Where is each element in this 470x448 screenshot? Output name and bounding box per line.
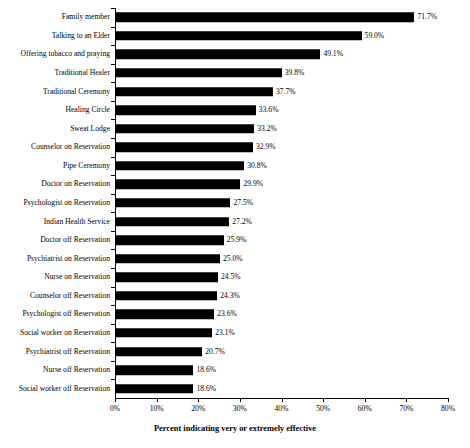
x-axis-tick [448,398,449,402]
category-label: Psychologist off Reservation [22,311,110,319]
x-axis-tick [240,398,241,402]
bar-row: Social worker on Reservation23.1% [0,324,470,343]
x-axis-tick [198,398,199,402]
bar-value-label: 59.0% [365,32,385,40]
category-label: Psychiatrist on Reservation [27,255,110,263]
bar [116,105,256,115]
category-label: Psychologist on Reservation [24,199,110,207]
bar-row: Pipe Ceremony30.8% [0,157,470,176]
category-label: Counselor off Reservation [30,292,110,300]
bar [116,87,273,97]
bar-row: Social worker off Reservation18.6% [0,379,470,398]
bar [116,384,193,394]
y-axis-tick [111,64,115,65]
bar-value-label: 23.1% [215,329,235,337]
y-axis-tick [111,119,115,120]
y-axis-tick [111,268,115,269]
category-label: Sweat Lodge [70,125,110,133]
x-axis-tick-label: 10% [150,405,164,413]
y-axis-tick [111,379,115,380]
bar [116,68,282,78]
y-axis-tick [111,287,115,288]
bar-row: Psychologist on Reservation27.5% [0,194,470,213]
bar-value-label: 18.6% [196,366,216,374]
y-axis-tick [111,138,115,139]
y-axis-tick [111,324,115,325]
bar-value-label: 33.6% [259,106,279,114]
x-axis-tick [323,398,324,402]
bar-value-label: 33.2% [257,125,277,133]
bar-value-label: 71.7% [417,13,437,21]
bar-value-label: 25.9% [227,236,247,244]
bar [116,235,224,245]
bar-value-label: 25.0% [223,255,243,263]
x-axis-tick [282,398,283,402]
x-axis-tick [157,398,158,402]
bar-value-label: 49.1% [323,51,343,59]
bar [116,13,414,23]
category-label: Family member [62,13,110,21]
bar-row: Nurse on Reservation24.5% [0,268,470,287]
bar-row: Nurse off Reservation18.6% [0,361,470,380]
x-axis-tick [406,398,407,402]
bar-row: Doctor on Reservation29.9% [0,175,470,194]
bar-row: Counselor on Reservation32.9% [0,138,470,157]
x-axis-tick-label: 0% [110,405,120,413]
category-label: Indian Health Service [44,218,110,226]
bar [116,328,212,338]
category-label: Doctor on Reservation [41,181,110,189]
y-axis-tick [111,212,115,213]
bar [116,310,214,320]
bar [116,50,320,60]
bar-row: Counselor off Reservation24.3% [0,287,470,306]
bar-row: Talking to an Elder59.0% [0,27,470,46]
x-axis-tick-label: 40% [275,405,289,413]
bar-value-label: 24.3% [220,292,240,300]
x-axis-tick-label: 20% [191,405,205,413]
bar-value-label: 30.8% [247,162,267,170]
bar-row: Traditional Healer39.8% [0,64,470,83]
y-axis-tick [111,45,115,46]
y-axis-tick [111,231,115,232]
bar-row: Psychiatrist off Reservation20.7% [0,342,470,361]
bar-value-label: 23.6% [217,311,237,319]
category-label: Counselor on Reservation [31,143,110,151]
bar [116,143,253,153]
y-axis-tick [111,82,115,83]
bar-value-label: 39.8% [285,69,305,77]
bar-row: Traditional Ceremony37.7% [0,82,470,101]
bar [116,198,230,208]
category-label: Traditional Healer [54,69,110,77]
x-axis-tick-label: 60% [358,405,372,413]
bar-row: Doctor off Reservation25.9% [0,231,470,250]
bar [116,161,244,171]
bar-row: Indian Health Service27.2% [0,212,470,231]
bar-value-label: 37.7% [276,88,296,96]
category-label: Doctor off Reservation [40,236,110,244]
bar-value-label: 27.5% [233,199,253,207]
bar-row: Healing Circle33.6% [0,101,470,120]
bar [116,180,240,190]
bar-value-label: 18.6% [196,385,216,393]
y-axis-tick [111,157,115,158]
category-label: Offering tobacco and praying [21,51,110,59]
category-label: Social worker off Reservation [19,385,110,393]
bar-row: Psychiatrist on Reservation25.0% [0,249,470,268]
bar-value-label: 29.9% [243,181,263,189]
x-axis-tick-label: 30% [233,405,247,413]
bar [116,31,362,41]
bar [116,124,254,134]
y-axis-tick [111,8,115,9]
bar [116,347,202,357]
x-axis-tick-label: 70% [399,405,413,413]
category-label: Nurse off Reservation [43,366,110,374]
category-label: Healing Circle [66,106,111,114]
x-axis-tick [365,398,366,402]
x-axis-tick [115,398,116,402]
bar [116,291,217,301]
bar-row: Offering tobacco and praying49.1% [0,45,470,64]
category-label: Social worker on Reservation [20,329,110,337]
y-axis-tick [111,27,115,28]
bar [116,254,220,264]
bar-value-label: 24.5% [221,273,241,281]
